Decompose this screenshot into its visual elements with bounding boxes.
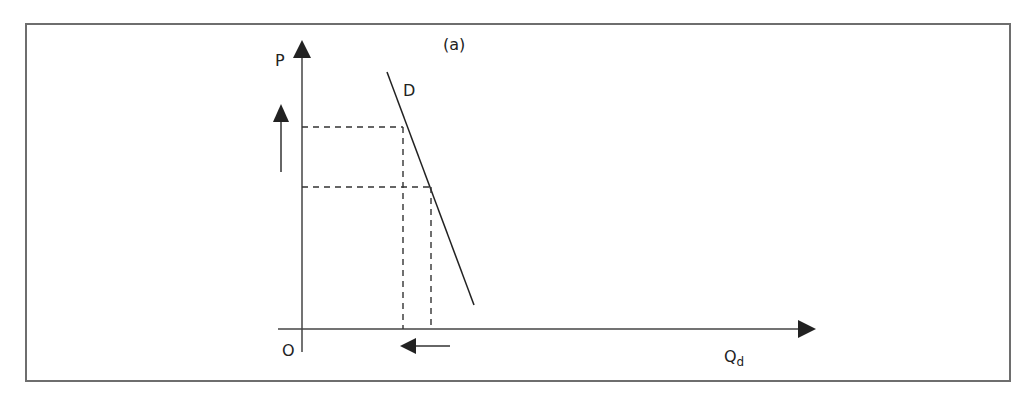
dashed-guides (302, 127, 431, 329)
x-axis-arrow-icon (798, 320, 816, 338)
y-axis (293, 40, 311, 352)
left-arrow-icon (400, 338, 416, 354)
up-arrow-icon (273, 104, 289, 122)
x-axis (278, 320, 816, 338)
curve-label: D (403, 81, 415, 100)
y-axis-label: P (275, 51, 285, 70)
origin-label: O (282, 341, 295, 360)
x-axis-label: Qd (724, 347, 744, 369)
panel-label: (a) (443, 35, 465, 54)
demand-diagram: P (a) D O Qd (0, 0, 1034, 403)
y-axis-arrow-icon (293, 40, 311, 58)
price-increase-arrow (273, 104, 289, 172)
quantity-decrease-arrow (400, 338, 450, 354)
